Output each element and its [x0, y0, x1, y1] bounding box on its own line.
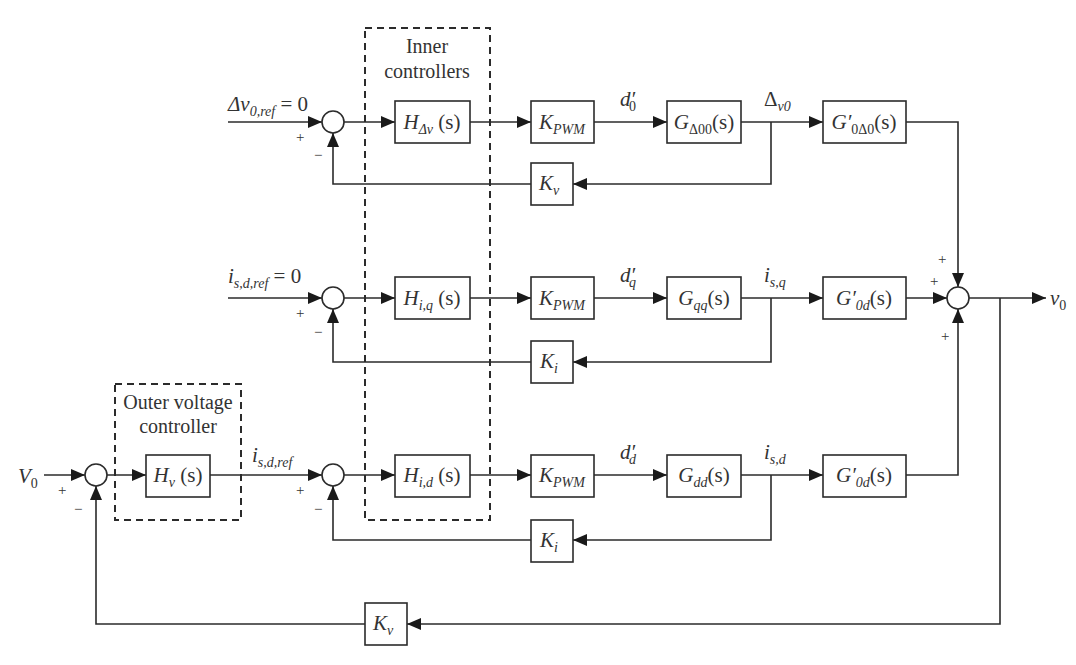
sign-minus: −	[74, 501, 82, 517]
sign-minus: −	[314, 147, 322, 163]
sign-plus: +	[296, 129, 304, 145]
label-duty-q: d′q	[620, 263, 636, 290]
row-q-axis: is,d,ref = 0 + − Hi,q (s) KPWM d′q Gqq(s…	[228, 263, 947, 383]
summing-junction-delta-v	[322, 111, 344, 133]
sign-plus: +	[296, 305, 304, 321]
inner-group-title-line2: controllers	[384, 60, 470, 82]
input-label-delta-v-ref: Δv0,ref = 0	[227, 92, 308, 119]
sign-minus: −	[314, 501, 322, 517]
sign-plus-bottom: +	[941, 328, 949, 344]
summing-junction-d	[322, 464, 344, 486]
outer-group-title-line2: controller	[139, 415, 217, 437]
outer-voltage-controller-group: Outer voltage controller	[115, 384, 241, 520]
outer-group-title-line1: Outer voltage	[123, 391, 233, 414]
sign-plus-left: +	[930, 273, 938, 289]
sign-plus-top: +	[938, 251, 946, 267]
inner-group-title-line1: Inner	[406, 35, 449, 57]
sign-plus: +	[296, 482, 304, 498]
label-is-q: is,q	[764, 263, 786, 290]
row-delta-v: Δv0,ref = 0 + − HΔv (s) KPWM d′0 GΔ00(s)…	[227, 87, 958, 287]
sign-minus: −	[314, 324, 322, 340]
summing-junction-output	[947, 287, 969, 309]
input-label-is-d-ref-zero: is,d,ref = 0	[228, 264, 301, 291]
label-delta-v0: Δv0	[764, 87, 791, 114]
label-h-v: Hv (s)	[153, 463, 203, 490]
output-label-v0: v0	[1050, 286, 1066, 313]
sign-plus: +	[58, 482, 66, 498]
label-is-d: is,d	[764, 440, 787, 467]
outer-voltage-feedback: Kv	[96, 486, 407, 645]
label-duty-0: d′0	[620, 87, 636, 114]
reference-label-v0: V0	[18, 464, 38, 491]
label-duty-d: d′d	[620, 440, 637, 467]
summing-junction-voltage	[85, 464, 107, 486]
summing-junction-q	[322, 287, 344, 309]
control-block-diagram: Inner controllers Outer voltage controll…	[0, 0, 1076, 665]
label-is-d-ref: is,d,ref	[252, 443, 294, 470]
